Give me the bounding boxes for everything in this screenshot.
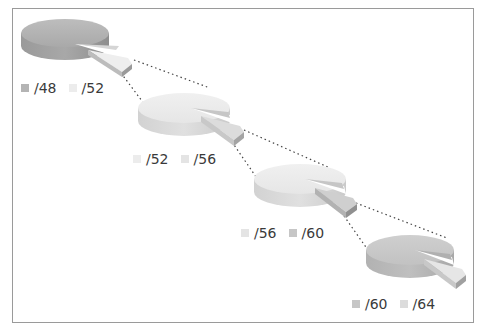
legend-swatch — [69, 84, 77, 92]
legend-swatch — [181, 155, 189, 163]
legend-label: /52 — [146, 151, 169, 167]
legend-label: /60 — [365, 296, 388, 312]
legend-swatch — [352, 300, 360, 308]
legend-item: /52 — [133, 151, 169, 167]
legend-swatch — [133, 155, 141, 163]
pie-chart-sequence — [0, 0, 484, 333]
legend-label: /60 — [302, 225, 325, 241]
legend-pie-4: /60 /64 — [352, 296, 447, 312]
pie-3 — [254, 164, 357, 218]
legend-pie-1: /48 /52 — [21, 80, 116, 96]
pie-4 — [366, 235, 466, 289]
legend-swatch — [289, 229, 297, 237]
legend-label: /64 — [413, 296, 436, 312]
legend-item: /56 — [181, 151, 217, 167]
legend-swatch — [241, 229, 249, 237]
legend-label: /56 — [254, 225, 277, 241]
pie-1 — [21, 19, 132, 77]
pie-2 — [138, 93, 244, 146]
legend-item: /52 — [69, 80, 105, 96]
legend-swatch — [21, 84, 29, 92]
legend-item: /64 — [400, 296, 436, 312]
legend-label: /48 — [34, 80, 57, 96]
legend-item: /56 — [241, 225, 277, 241]
legend-pie-3: /56 /60 — [241, 225, 336, 241]
legend-item: /60 — [352, 296, 388, 312]
legend-label: /56 — [194, 151, 217, 167]
legend-label: /52 — [82, 80, 105, 96]
legend-pie-2: /52 /56 — [133, 151, 228, 167]
legend-swatch — [400, 300, 408, 308]
legend-item: /48 — [21, 80, 57, 96]
legend-item: /60 — [289, 225, 325, 241]
